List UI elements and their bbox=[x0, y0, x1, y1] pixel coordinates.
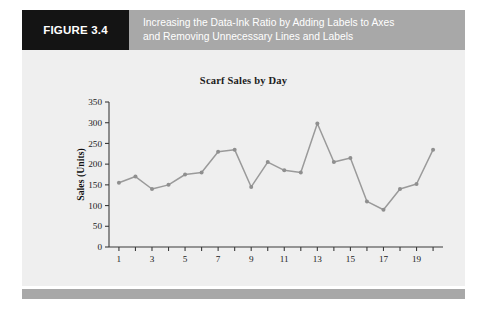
x-tick-label: 3 bbox=[150, 254, 155, 263]
y-tick-label: 0 bbox=[97, 242, 102, 252]
figure-caption-line-1: Increasing the Data-Ink Ratio by Adding … bbox=[143, 16, 457, 30]
x-tick-label: 5 bbox=[183, 254, 188, 263]
y-tick-label: 50 bbox=[93, 221, 103, 231]
data-point-marker bbox=[315, 122, 319, 126]
data-point-marker bbox=[332, 160, 336, 164]
y-tick-label: 300 bbox=[88, 118, 102, 128]
y-tick-label: 250 bbox=[88, 139, 102, 149]
x-tick-label: 7 bbox=[216, 254, 221, 263]
data-point-marker bbox=[200, 170, 204, 174]
y-axis-title: Sales (Units) bbox=[75, 148, 87, 201]
data-point-marker bbox=[133, 175, 137, 179]
x-tick-label: 13 bbox=[313, 254, 323, 263]
data-series-scarf-sales bbox=[117, 122, 435, 212]
line-chart: 050100150200250300350 135791113151719 Sa… bbox=[22, 50, 465, 263]
data-point-marker bbox=[381, 208, 385, 212]
data-point-marker bbox=[117, 181, 121, 185]
chart-panel: Scarf Sales by Day 050100150200250300350… bbox=[22, 50, 465, 263]
data-point-marker bbox=[365, 199, 369, 203]
data-point-marker bbox=[415, 182, 419, 186]
data-point-marker bbox=[282, 168, 286, 172]
figure-caption-line-2: and Removing Unnecessary Lines and Label… bbox=[143, 30, 457, 44]
x-tick-label: 1 bbox=[117, 254, 122, 263]
data-point-marker bbox=[150, 187, 154, 191]
data-point-marker bbox=[299, 170, 303, 174]
data-point-marker bbox=[266, 160, 270, 164]
figure-number-label: FIGURE 3.4 bbox=[43, 24, 108, 36]
data-point-marker bbox=[348, 156, 352, 160]
x-tick-label: 11 bbox=[280, 254, 289, 263]
data-point-marker bbox=[249, 185, 253, 189]
x-tick-label: 19 bbox=[412, 254, 422, 263]
data-point-marker bbox=[183, 173, 187, 177]
figure-caption: Increasing the Data-Ink Ratio by Adding … bbox=[129, 10, 465, 50]
bottom-decorative-band bbox=[22, 289, 465, 299]
x-tick-label: 15 bbox=[346, 254, 356, 263]
y-tick-label: 150 bbox=[88, 180, 102, 190]
x-tick-label: 17 bbox=[379, 254, 389, 263]
figure-number-tag: FIGURE 3.4 bbox=[22, 10, 129, 50]
data-point-marker bbox=[167, 183, 171, 187]
figure-block: FIGURE 3.4 Increasing the Data-Ink Ratio… bbox=[22, 10, 465, 286]
data-point-marker bbox=[398, 187, 402, 191]
data-point-marker bbox=[216, 150, 220, 154]
x-axis: 135791113151719 bbox=[109, 247, 443, 263]
y-tick-label: 100 bbox=[88, 201, 102, 211]
y-axis: 050100150200250300350 bbox=[88, 97, 109, 252]
x-tick-label: 9 bbox=[249, 254, 254, 263]
data-point-marker bbox=[233, 148, 237, 152]
y-tick-label: 350 bbox=[88, 97, 102, 107]
y-tick-label: 200 bbox=[88, 159, 102, 169]
data-point-marker bbox=[431, 148, 435, 152]
figure-header: FIGURE 3.4 Increasing the Data-Ink Ratio… bbox=[22, 10, 465, 50]
